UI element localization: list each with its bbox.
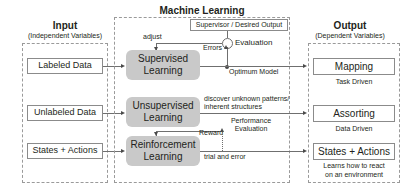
output-subheading: (Dependent Variables) — [296, 32, 404, 39]
input-item-states-actions-label: States + Actions — [33, 146, 98, 156]
process-supervised-learning[interactable]: Supervised Learning — [126, 50, 200, 80]
process-reinforcement-learning[interactable]: Reinforcement Learning — [126, 136, 200, 166]
performance-evaluation-line2: Evaluation — [235, 125, 268, 132]
process-reinforcement-learning-line1: Reinforcement — [130, 139, 195, 151]
process-unsupervised-learning[interactable]: Unsupervised Learning — [126, 97, 200, 127]
input-item-unlabeled-data-label: Unlabeled Data — [34, 108, 96, 118]
output-item-mapping[interactable]: Mapping — [313, 58, 395, 75]
process-unsupervised-learning-line1: Unsupervised — [132, 100, 193, 112]
arrowhead-reward-icon — [154, 132, 158, 136]
connector-performance-evaluation — [222, 131, 223, 151]
trial-and-error-label: trial and error — [204, 153, 246, 160]
process-reinforcement-learning-line2: Learning — [144, 151, 183, 163]
evaluation-label: Evaluation — [235, 38, 272, 47]
performance-evaluation-line1: Performance — [231, 117, 271, 124]
optimum-model-label: Optimum Model — [229, 68, 278, 75]
output-item-states-actions-label: States + Actions — [318, 146, 390, 157]
process-supervised-learning-line1: Supervised — [138, 53, 188, 65]
arrowhead-performance-evaluation-icon — [220, 128, 224, 132]
input-heading: Input — [22, 20, 108, 31]
output-item-states-actions[interactable]: States + Actions — [313, 143, 395, 160]
input-item-states-actions[interactable]: States + Actions — [27, 143, 103, 159]
discover-patterns-line1: discover unknown patterns/ — [204, 95, 289, 102]
performance-evaluation-label: Performance Evaluation — [224, 117, 278, 133]
connector-supervisor-to-evaluation — [227, 31, 228, 38]
output-item-mapping-caption: Task Driven — [313, 78, 395, 85]
connector-reinforcement-to-states — [200, 151, 304, 152]
arrowhead-reinforcement-to-states-icon — [303, 149, 307, 153]
input-item-unlabeled-data[interactable]: Unlabeled Data — [27, 105, 103, 121]
input-item-labeled-data[interactable]: Labeled Data — [27, 58, 103, 74]
input-item-labeled-data-label: Labeled Data — [38, 61, 92, 71]
diagram-canvas: Input (Independent Variables) Labeled Da… — [0, 0, 405, 196]
output-item-assorting-caption: Data Driven — [313, 125, 395, 132]
connector-unsupervised-to-assorting — [200, 113, 304, 114]
output-item-states-actions-caption: Learns how to react on an environment — [310, 162, 398, 180]
discover-patterns-label: discover unknown patterns/ inherent stru… — [204, 95, 289, 111]
connector-supervised-to-mapping — [200, 66, 304, 67]
process-unsupervised-learning-line2: Learning — [144, 112, 183, 124]
output-item-states-actions-caption-line1: Learns how to react — [323, 162, 384, 169]
discover-patterns-line2: inherent structures — [204, 103, 262, 110]
process-supervised-learning-line2: Learning — [144, 65, 183, 77]
output-heading: Output — [300, 20, 400, 31]
machine-learning-heading: Machine Learning — [114, 5, 290, 16]
output-item-assorting-label: Assorting — [333, 108, 375, 119]
output-item-states-actions-caption-line2: on an environment — [325, 171, 383, 178]
errors-label: Errors — [203, 44, 222, 51]
output-item-mapping-label: Mapping — [335, 61, 373, 72]
supervisor-desired-output-box[interactable]: Supervisor / Desired Output — [190, 19, 288, 31]
supervisor-desired-output-label: Supervisor / Desired Output — [196, 21, 282, 29]
input-subheading: (Independent Variables) — [14, 32, 116, 39]
adjust-label: adjust — [143, 33, 162, 40]
arrowhead-unsupervised-to-assorting-icon — [303, 111, 307, 115]
arrowhead-errors-icon — [224, 45, 228, 49]
output-item-assorting[interactable]: Assorting — [313, 105, 395, 122]
arrowhead-supervised-to-mapping-icon — [303, 64, 307, 68]
